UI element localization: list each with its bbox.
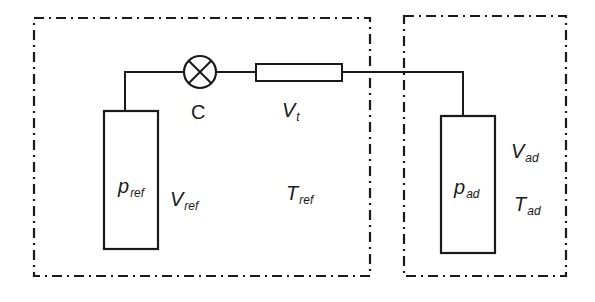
reference-volume-sub: ref [184,199,198,213]
adsorption-volume-sub: ad [525,151,538,165]
tube-volume-label: Vt [282,100,300,123]
valve-icon [184,56,216,88]
adsorption-temperature-main: T [514,193,526,215]
adsorption-pressure-label: pad [454,177,479,200]
reference-pressure-sub: ref [130,186,144,200]
adsorption-temperature-label: Tad [514,194,541,217]
adsorption-pressure-sub: ad [466,187,479,201]
tube-element [256,64,342,81]
reference-temperature-label: Tref [286,183,313,206]
diagram-canvas [0,0,595,302]
valve-label-text: C [191,101,205,123]
adsorption-volume-label: Vad [511,141,539,164]
adsorption-volume-main: V [511,140,524,162]
adsorption-pressure-main: p [454,176,465,198]
tube-volume-main: V [282,99,295,121]
reference-pressure-main: p [118,175,129,197]
reference-volume-main: V [170,188,183,210]
pipe-tube-to-adsorption-cell [342,72,463,116]
adsorption-temperature-sub: ad [527,204,540,218]
pipe-reference-to-valve [125,72,184,111]
tube-volume-sub: t [296,110,299,124]
reference-pressure-label: pref [118,176,144,199]
reference-volume-label: Vref [170,189,198,212]
reference-temperature-main: T [286,182,298,204]
reference-temperature-sub: ref [299,193,313,207]
valve-label: C [191,102,205,122]
